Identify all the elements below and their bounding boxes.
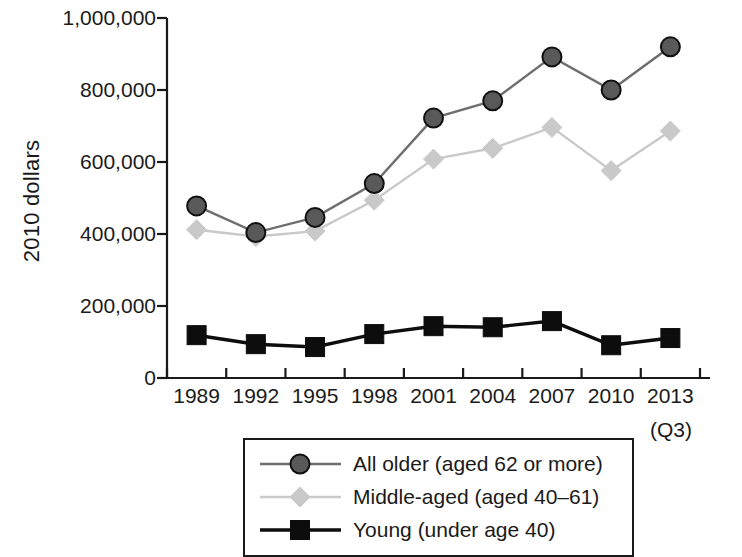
data-point-square [365,325,384,344]
data-point-square [661,329,680,348]
data-point-circle [602,81,621,100]
data-point-circle [424,109,443,128]
data-point-diamond [187,220,207,240]
legend-item: Middle-aged (aged 40–61) [245,480,632,513]
data-point-diamond [424,149,444,169]
plot-area [0,0,742,400]
data-point-diamond [660,121,680,141]
data-point-diamond [601,161,621,181]
data-point-square [542,312,561,331]
data-point-square [483,318,502,337]
legend-marker-diamond-icon [258,482,343,512]
data-point-circle [306,208,325,227]
chart-legend: All older (aged 62 or more)Middle-aged (… [243,438,634,557]
data-point-diamond [542,117,562,137]
legend-label: Middle-aged (aged 40–61) [343,485,599,509]
data-point-circle [246,223,265,242]
series-line [197,47,671,233]
series-line [197,127,671,236]
series-square [187,312,680,357]
data-point-circle [483,91,502,110]
x-axis-note: (Q3) [650,418,692,442]
legend-label: Young (under age 40) [343,518,555,542]
data-point-square [246,335,265,354]
series-circle [187,37,680,242]
legend-marker-square-icon [258,515,343,545]
data-point-diamond [483,138,503,158]
legend-marker-circle-icon [258,449,343,479]
data-point-circle [661,37,680,56]
legend-item: All older (aged 62 or more) [245,447,632,480]
data-point-square [306,338,325,357]
data-point-square [187,326,206,345]
data-point-circle [187,196,206,215]
legend-label: All older (aged 62 or more) [343,452,603,476]
legend-item: Young (under age 40) [245,513,632,546]
data-point-circle [542,47,561,66]
data-point-square [602,336,621,355]
data-point-square [424,317,443,336]
data-point-circle [365,174,384,193]
